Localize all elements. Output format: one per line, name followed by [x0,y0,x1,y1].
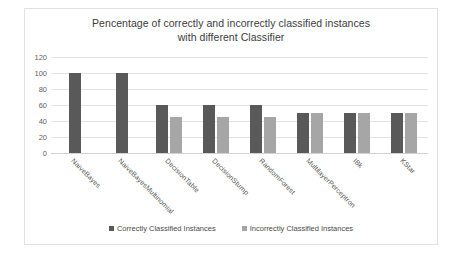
bar [264,117,276,153]
bar [405,113,417,153]
plot-area: 120100806040200 [51,57,428,153]
x-axis-labels: NaiveBayesNaiveBayesMultinomialDecisionT… [51,155,428,217]
bar-group [334,57,381,153]
x-axis-tick-label: KStar [399,157,417,175]
legend-label: Correctly Classified Instances [117,224,216,233]
bar-group [51,57,98,153]
chart-title-line-1: Pencentage of correctly and incorrectly … [92,17,370,29]
bar [344,113,356,153]
bar [358,113,370,153]
legend-swatch-icon [109,226,114,231]
x-axis-label-slot: DecisionStump [192,155,239,217]
y-axis-tick-label: 20 [39,133,47,142]
bar [116,73,128,153]
y-axis-tick-label: 40 [39,117,47,126]
chart-legend: Correctly Classified InstancesIncorrectl… [25,224,437,233]
chart-title-line-2: with different Classifier [25,31,437,45]
bar [217,117,229,153]
bar-group [98,57,145,153]
x-axis-label-slot: IBk [334,155,381,217]
bar-group [381,57,428,153]
bar-group [240,57,287,153]
x-axis-label-slot: DecisionTable [145,155,192,217]
bar [391,113,403,153]
legend-item[interactable]: Incorrectly Classified Instances [242,224,353,233]
y-axis-tick-label: 80 [39,85,47,94]
bar [311,113,323,153]
bar [297,113,309,153]
bar [250,105,262,153]
x-axis-label-slot: MultilayerPerceptron [287,155,334,217]
bar [69,73,81,153]
bar-group [145,57,192,153]
bar [170,117,182,153]
bar-group [192,57,239,153]
y-axis-tick-label: 100 [34,69,47,78]
x-axis-label-slot: RandomForest [240,155,287,217]
bar [203,105,215,153]
y-axis-tick-label: 60 [39,101,47,110]
chart-container: Pencentage of correctly and incorrectly … [24,8,438,245]
x-axis-tick-label: IBk [352,157,364,169]
legend-swatch-icon [242,226,247,231]
bars-layer [51,57,428,153]
legend-label: Incorrectly Classified Instances [250,224,353,233]
chart-title: Pencentage of correctly and incorrectly … [25,17,437,44]
bar-group [287,57,334,153]
gridline [51,153,428,154]
y-axis-tick-label: 120 [34,53,47,62]
x-axis-tick-label: NaiveBayes [70,157,102,189]
x-axis-label-slot: NaiveBayes [51,155,98,217]
legend-item[interactable]: Correctly Classified Instances [109,224,216,233]
x-axis-label-slot: KStar [381,155,428,217]
x-axis-label-slot: NaiveBayesMultinomial [98,155,145,217]
bar [156,105,168,153]
y-axis-tick-label: 0 [43,149,47,158]
